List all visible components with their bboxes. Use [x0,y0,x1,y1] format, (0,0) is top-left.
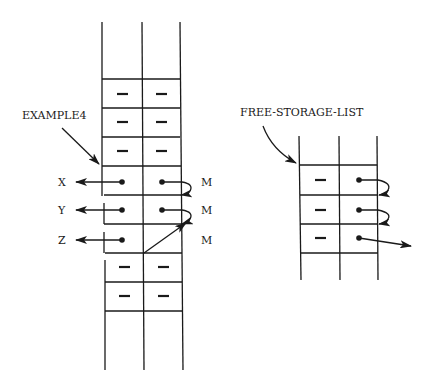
left-cons-cell-column [102,22,183,370]
right-column-middle-divider [339,136,340,280]
example4-label: EXAMPLE4 [22,109,86,122]
right-column-left-border [299,136,301,280]
pointer-row-z: Z M [58,223,212,253]
right-cons-cell-column [299,136,411,280]
left-column-right-border [180,22,183,370]
pointer-row-y: Y M [57,204,212,224]
free-list-next-arrow [359,180,389,195]
target-label-m: M [201,234,212,247]
target-label-x: X [58,176,66,189]
pointer-row-x: X M [58,176,212,195]
left-column-middle-divider [142,22,144,370]
free-list-tail-arrow [359,238,411,246]
free-storage-list-label: FREE-STORAGE-LIST [240,106,364,119]
free-list-next-arrow [359,210,389,224]
target-label-m: M [201,176,212,189]
memory-diagram: EXAMPLE4 X M Y M Z M FREE-STORAGE-LIST [0,0,437,390]
cdr-arrow-next [162,182,191,195]
right-column-right-border [377,136,378,280]
target-label-z: Z [58,234,66,247]
cdr-arrow-diagonal [144,223,186,253]
example4-pointer-arrow [62,128,99,164]
free-storage-pointer-arrow [263,126,296,163]
target-label-m: M [201,204,212,217]
cdr-arrow-next [162,210,191,224]
target-label-y: Y [57,204,66,217]
